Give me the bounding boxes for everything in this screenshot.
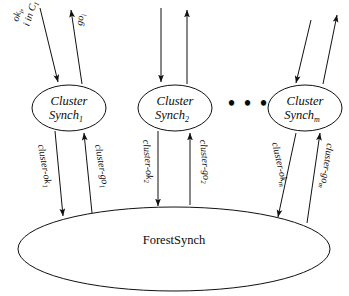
label-cluster-go-m-group: cluster-gom — [316, 142, 336, 189]
label-cluster-ok-1-group: cluster-ok1 — [34, 143, 55, 188]
cluster-synch-1-label-word: Synch — [49, 108, 79, 122]
cluster-synch-m-subscript: m — [314, 115, 320, 124]
edge-cluster-go-m — [307, 133, 320, 223]
cluster-synch-1-label-line2: Synch1 — [49, 108, 83, 124]
forest-synch-label: ForestSynch — [143, 233, 206, 247]
edge-cluster-go-1 — [84, 133, 92, 213]
label-cluster-ok-m: cluster-okm — [268, 141, 291, 188]
ellipsis-icon: • • • — [228, 92, 269, 114]
label-go-i: goi — [73, 13, 88, 27]
label-cluster-ok-m-group: cluster-okm — [268, 141, 291, 188]
cluster-synch-2-label-line2: Synch2 — [155, 108, 189, 124]
cluster-synch-m-label-line1: Cluster — [287, 94, 324, 108]
cluster-synch-m-label-word: Synch — [284, 108, 314, 122]
edge-cluster-ok-1 — [55, 131, 63, 216]
label-cluster-go-1-sub: 1 — [98, 184, 106, 189]
label-cluster-go-2-main: cluster-go — [198, 139, 212, 180]
diagram-canvas: Cluster Synch1 Cluster Synch2 Cluster Sy… — [0, 0, 349, 296]
label-cluster-go-2-sub: 2 — [199, 180, 207, 185]
label-ok-comma: , — [13, 6, 24, 12]
label-cluster-ok-m-main: cluster-ok — [270, 141, 290, 183]
label-cluster-go-1-main: cluster-go — [93, 143, 111, 185]
label-cluster-ok-1-main: cluster-ok — [36, 143, 54, 185]
label-cluster-ok-2-group: cluster-ok2 — [139, 139, 156, 184]
label-go-i-group: goi — [73, 13, 88, 27]
edge-ok-m-incoming — [296, 20, 311, 83]
label-ok-i-group: oki, i in C1 — [9, 0, 41, 28]
label-cluster-ok-2-main: cluster-ok — [141, 139, 155, 180]
label-go-sub: i — [80, 14, 88, 17]
label-cluster-go-m: cluster-gom — [316, 142, 336, 189]
label-cluster-go-2-group: cluster-go2 — [196, 139, 213, 184]
label-cluster-ok-1-sub: 1 — [40, 184, 48, 189]
cluster-synch-1-label-line1: Cluster — [51, 94, 88, 108]
forest-synch-ellipse[interactable] — [18, 207, 330, 291]
label-cluster-go-1: cluster-go1 — [91, 143, 112, 189]
cluster-synch-2-subscript: 2 — [185, 115, 189, 124]
cluster-synch-1-subscript: 1 — [79, 115, 83, 124]
label-cluster-go-m-sub: m — [316, 182, 325, 188]
label-cluster-ok-2: cluster-ok2 — [139, 139, 156, 184]
label-cluster-ok-2-sub: 2 — [142, 179, 150, 184]
label-cluster-go-1-group: cluster-go1 — [91, 143, 112, 189]
edge-go-m-outgoing — [323, 15, 337, 84]
diagram-svg: Cluster Synch1 Cluster Synch2 Cluster Sy… — [0, 0, 349, 296]
cluster-synch-2-label-word: Synch — [155, 108, 185, 122]
label-cluster-go-m-main: cluster-go — [319, 143, 336, 184]
label-cluster-go-2: cluster-go2 — [196, 139, 213, 184]
edge-ok-1-incoming — [40, 8, 58, 82]
label-cluster-ok-1: cluster-ok1 — [34, 143, 55, 188]
cluster-synch-2-label-line1: Cluster — [157, 94, 194, 108]
label-i-in-c: i in C1 — [21, 0, 42, 28]
